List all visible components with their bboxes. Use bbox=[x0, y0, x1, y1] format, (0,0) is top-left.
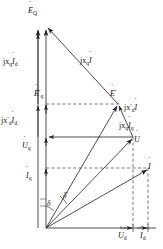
dashed-lines-group bbox=[46, 104, 150, 230]
label-e-q-prime: E′q bbox=[34, 90, 43, 98]
label-i-d: Id bbox=[140, 232, 145, 240]
label-e-prime: E′ bbox=[110, 90, 116, 98]
label-u-q: Uq bbox=[22, 142, 31, 150]
label-u: U bbox=[134, 136, 140, 144]
label-jxdprime-i: jx′dI bbox=[124, 104, 137, 112]
label-delta-prime: δ′ bbox=[63, 192, 68, 200]
label-jxq-iq: jxqIq bbox=[119, 122, 134, 130]
label-delta: δ bbox=[47, 200, 51, 208]
label-jxq-id: jxqId bbox=[3, 58, 18, 66]
vector-i bbox=[46, 170, 147, 228]
label-e-q: EQ bbox=[28, 7, 37, 15]
label-u-d: Ud bbox=[118, 232, 127, 240]
vector-u bbox=[46, 139, 132, 228]
phasor-diagram: EQ jxqId jx′dId Uq Iq E′q jxqI E′ jx′dI … bbox=[0, 0, 163, 249]
phasor-diagram-canvas bbox=[0, 0, 163, 249]
label-i-q: Iq bbox=[26, 172, 31, 180]
vector-jxq-i bbox=[48, 28, 118, 104]
vector-e-prime bbox=[46, 106, 117, 228]
label-jxq-i: jxqI bbox=[80, 57, 92, 65]
label-i: I bbox=[148, 163, 151, 171]
label-jxdprime-id: jx′dId bbox=[1, 117, 17, 125]
